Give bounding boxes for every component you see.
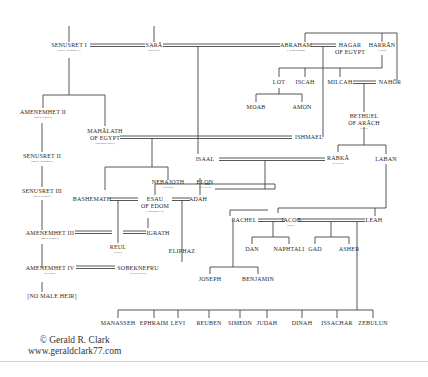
name: ELON (197, 179, 214, 185)
name: ADAH (189, 196, 207, 202)
person-laban: LABAN (375, 156, 397, 163)
note: (Israel) (281, 224, 301, 227)
name: JUDAH (257, 320, 278, 326)
person-adah: ADAH (189, 196, 207, 203)
person-leah: LEAH (366, 217, 383, 224)
person-dan: DAN (245, 246, 259, 253)
person-ephraim: EPHRAIM (140, 320, 168, 327)
note: (Rebecca) (327, 162, 349, 165)
name: GAD (308, 246, 322, 252)
note: (the Hittite) (197, 186, 214, 189)
name: LEVI (171, 320, 185, 326)
person-lot: LOT (273, 79, 285, 86)
note: (son of Amenemhet I) (51, 49, 87, 52)
name: ISSACHAR (321, 320, 352, 326)
note: (Nebaioth) (152, 186, 185, 189)
name: LABAN (375, 156, 397, 162)
name: MANASSEH (101, 320, 136, 326)
name: DINAH (292, 320, 312, 326)
name: NAHŌR (379, 79, 401, 85)
note: (son of Senusret) (22, 195, 62, 198)
person-amenemhet-iii: AMENEMHET III(son of Senusret) (26, 230, 74, 240)
person-milcah: MILCAH (328, 79, 353, 86)
person-reuben: REUBEN (196, 320, 221, 327)
person-harran: HARRĀN(Haran) (369, 42, 396, 52)
person-elon: ELON(the Hittite) (197, 179, 214, 189)
name: REUBEN (196, 320, 221, 326)
name: SOBEKNEFRU (117, 265, 158, 271)
name: MAHĀLATH (87, 128, 122, 134)
person-dinah: DINAH (292, 320, 312, 327)
name: BASHEMATH (73, 196, 111, 202)
person-eliphaz: ELIPHAZ (169, 248, 195, 255)
person-bashemath: BASHEMATH (73, 196, 111, 203)
person-amenemhet-ii: AMENEMHET II(son of Senusret) (20, 109, 66, 119)
name: SENUSRET I (51, 42, 87, 48)
person-issachar: ISSACHAR (321, 320, 352, 327)
name: NEBAJOTH (152, 179, 185, 185)
person-judah: JUDAH (257, 320, 278, 327)
person-esau: ESAUOF EDOM(Amenemhet III) (141, 196, 169, 213)
person-hagar: HAGAROF EGYPT (335, 42, 365, 56)
note: (Reuel) (110, 251, 126, 254)
person-igrath: IGRATH (146, 230, 169, 237)
person-sara: SARĀ(half sister) (146, 42, 163, 52)
person-jacob: JACOB(Israel) (281, 217, 301, 227)
name: BETHUEL (350, 113, 379, 119)
person-reul: REUL(Reuel) (110, 244, 126, 254)
name: ISAAL (196, 156, 215, 162)
person-levi: LEVI (171, 320, 185, 327)
person-senusret-iii: SENUSRET III(son of Senusret) (22, 188, 62, 198)
person-senusret-i: SENUSRET I(son of Amenemhet I) (51, 42, 87, 52)
name: SIMEON (228, 320, 252, 326)
person-manasseh: MANASSEH (101, 320, 136, 327)
note: (Uruk) (348, 127, 379, 130)
person-abraham: ABRAHAM(Abram/Ibrahim) (280, 42, 312, 52)
person-mahalath: MAHĀLATHOF EGYPT(Basemath/Nofret) (87, 128, 122, 145)
note: (Amenemhet III) (141, 210, 169, 213)
name-line2: OF EGYPT (335, 49, 365, 55)
name: LOT (273, 79, 285, 85)
person-nahor: NAHŌR (379, 79, 401, 86)
name: DAN (245, 246, 259, 252)
person-rabka: RABKĀ(Rebecca) (327, 155, 349, 165)
name: LEAH (366, 217, 383, 223)
name: AMENEMHET IV (26, 265, 74, 271)
name: RABKĀ (327, 155, 349, 161)
name-line2: OF ARĀCH (348, 120, 379, 126)
person-moab: MOAB (247, 104, 266, 111)
name: ELIPHAZ (169, 248, 195, 254)
name: EPHRAIM (140, 320, 168, 326)
person-no-male-heir: [NO MALE HEIR] (27, 293, 76, 300)
name: SARĀ (146, 42, 163, 48)
note: (half sister) (146, 49, 163, 52)
name: JACOB (281, 217, 301, 223)
name: MILCAH (328, 79, 353, 85)
name: ABRAHAM (280, 42, 312, 48)
person-naphtali: NAPHTALI (273, 246, 304, 253)
name: RACHEL (231, 217, 256, 223)
credit-block: © Gerald R. Clark www.geraldclark77.com (28, 335, 121, 357)
website-link[interactable]: www.geraldclark77.com (28, 346, 121, 357)
name: IGRATH (146, 230, 169, 236)
person-isaac: ISAAL (196, 156, 215, 163)
person-benjamin: BENJAMIN (242, 276, 274, 283)
person-gad: GAD (308, 246, 322, 253)
name: AMON (292, 104, 311, 110)
name: ZEBULUN (358, 320, 387, 326)
person-bethuel: BETHUELOF ARĀCH(Uruk) (348, 113, 379, 130)
note: (last of dynasty) (117, 272, 158, 275)
person-joseph: JOSEPH (199, 276, 222, 283)
person-amon: AMON (292, 104, 311, 111)
note: (son of Senusret) (26, 237, 74, 240)
note: (son of Senusret) (20, 116, 66, 119)
name: SENUSRET II (23, 153, 61, 159)
bottom-divider (0, 361, 428, 362)
person-ishmael: ISHMAEL (295, 134, 323, 141)
person-iscah: ISCAH (295, 79, 314, 86)
person-amenemhet-iv: AMENEMHET IV(co-regent) (26, 265, 74, 275)
person-sobeknefru: SOBEKNEFRU(last of dynasty) (117, 265, 158, 275)
name: AMENEMHET II (20, 109, 66, 115)
person-asher: ASHER (339, 246, 360, 253)
copyright-text: © Gerald R. Clark (28, 335, 121, 346)
